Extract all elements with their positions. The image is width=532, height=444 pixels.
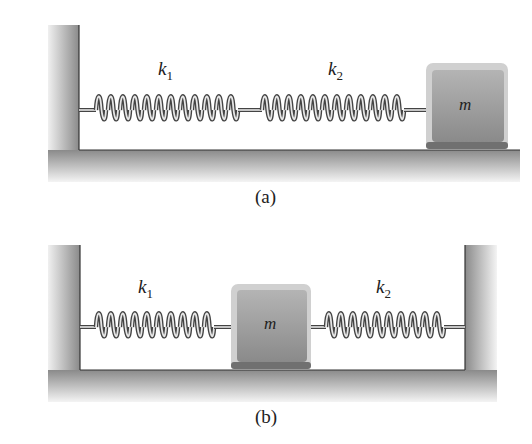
label-k1-b: k1 bbox=[138, 276, 153, 302]
label-mass-a: m bbox=[459, 95, 471, 115]
floor-a bbox=[48, 150, 520, 182]
spring-mass-diagram bbox=[0, 0, 532, 444]
floor-b bbox=[48, 370, 497, 402]
label-mass-b: m bbox=[264, 314, 276, 334]
label-k2-b: k2 bbox=[376, 276, 391, 302]
figure-a bbox=[48, 25, 520, 182]
caption-b: (b) bbox=[255, 406, 277, 428]
spring-k1-a bbox=[79, 96, 262, 119]
label-k2-a: k2 bbox=[328, 58, 343, 84]
caption-a: (a) bbox=[255, 186, 276, 208]
label-k1-a: k1 bbox=[158, 58, 173, 84]
spring-k2-b bbox=[311, 313, 465, 336]
spring-k2-a bbox=[262, 96, 426, 119]
spring-k1-b bbox=[80, 313, 231, 336]
